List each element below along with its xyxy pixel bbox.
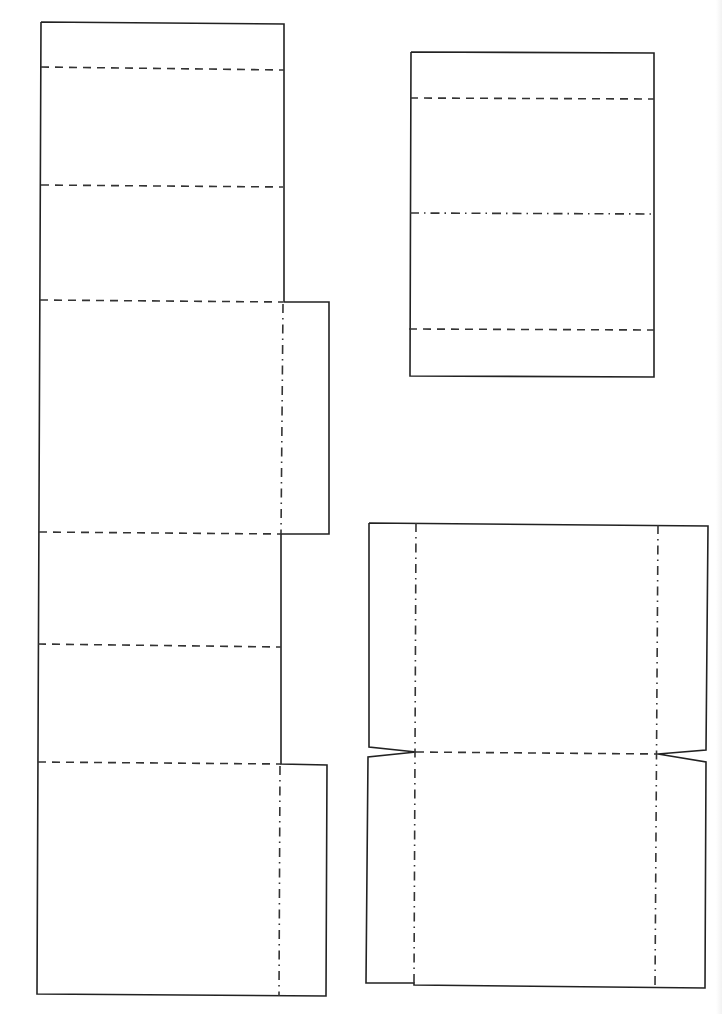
pieces-layer bbox=[37, 22, 708, 996]
valley-fold-line bbox=[410, 98, 654, 99]
valley-fold-line bbox=[416, 752, 658, 754]
mountain-fold-line bbox=[281, 304, 283, 534]
mountain-fold-line bbox=[279, 766, 280, 996]
long-strip bbox=[37, 22, 329, 996]
mountain-fold-line bbox=[414, 523, 416, 983]
small-panel bbox=[409, 52, 654, 377]
mountain-fold-line bbox=[655, 525, 658, 988]
valley-fold-line bbox=[409, 329, 654, 330]
valley-fold-line bbox=[38, 644, 281, 647]
valley-fold-line bbox=[40, 300, 283, 302]
cut-line bbox=[37, 22, 329, 996]
mountain-fold-line bbox=[410, 213, 654, 214]
template-canvas bbox=[0, 0, 722, 1014]
tray-net bbox=[366, 523, 708, 988]
valley-fold-line bbox=[41, 67, 284, 70]
scan-edge-shadow bbox=[716, 0, 722, 1014]
valley-fold-line bbox=[41, 185, 283, 187]
valley-fold-line bbox=[39, 532, 281, 534]
valley-fold-line bbox=[38, 762, 281, 764]
